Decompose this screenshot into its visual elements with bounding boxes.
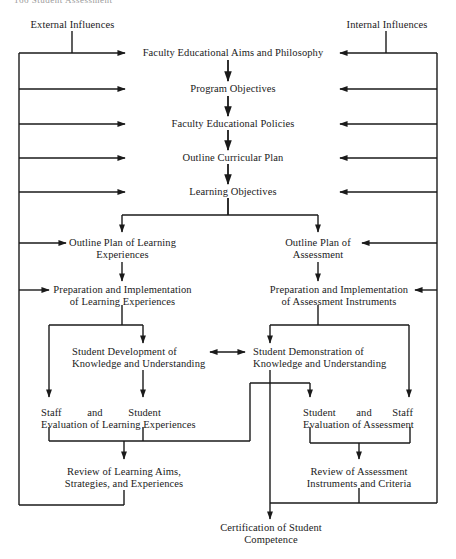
node-faculty-policies: Faculty Educational Policies bbox=[128, 118, 338, 130]
node-preparation-learning: Preparation and Implementation of Learni… bbox=[50, 284, 195, 308]
page-header-cut-off: 166 Student Assessment bbox=[14, 0, 113, 5]
node-student-demonstration: Student Demonstration of Knowledge and U… bbox=[253, 346, 393, 370]
node-review-learning: Review of Learning Aims, Strategies, and… bbox=[60, 466, 188, 490]
node-certification: Certification of Student Competence bbox=[215, 522, 327, 546]
internal-influences-label: Internal Influences bbox=[327, 19, 447, 31]
node-review-assessment: Review of Assessment Instruments and Cri… bbox=[300, 466, 418, 490]
node-curricular-plan: Outline Curricular Plan bbox=[128, 152, 338, 164]
node-learning-evaluation: Staff and Student Evaluation of Learning… bbox=[41, 407, 197, 431]
node-learning-objectives: Learning Objectives bbox=[128, 186, 338, 198]
node-preparation-assessment: Preparation and Implementation of Assess… bbox=[266, 284, 412, 308]
node-faculty-aims: Faculty Educational Aims and Philosophy bbox=[128, 47, 338, 59]
external-influences-label: External Influences bbox=[10, 19, 135, 31]
curriculum-assessment-flow-diagram: 166 Student Assessment External Influenc… bbox=[0, 0, 456, 559]
node-program-objectives: Program Objectives bbox=[128, 83, 338, 95]
node-outline-plan-learning: Outline Plan of Learning Experiences bbox=[55, 237, 190, 261]
node-assessment-evaluation: Student and Staff Evaluation of Assessme… bbox=[303, 407, 417, 431]
node-student-development: Student Development of Knowledge and Und… bbox=[72, 346, 207, 370]
node-outline-plan-assessment: Outline Plan of Assessment bbox=[270, 237, 366, 261]
